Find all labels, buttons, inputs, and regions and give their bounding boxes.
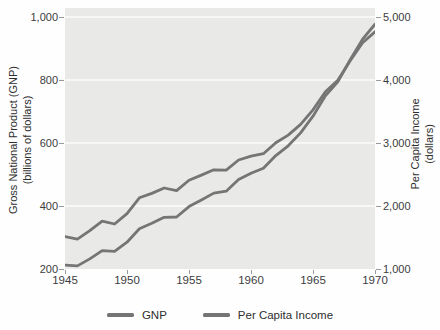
left-axis-tick-label: 1,000	[30, 11, 58, 23]
gnp-per-capita-income-chart: Gross National Product (GNP) (billions o…	[0, 0, 440, 330]
right-axis-title: Per Capita Income (dollars)	[409, 98, 436, 189]
right-axis-tick	[376, 206, 381, 207]
right-axis-tick	[376, 143, 381, 144]
right-axis-title-line2: (dollars)	[422, 98, 436, 189]
left-axis-tick	[59, 206, 64, 207]
right-axis-tick	[376, 269, 381, 270]
x-axis-tick-label: 1965	[291, 274, 335, 286]
right-axis-tick-label: 3,000	[383, 137, 411, 149]
right-axis-tick	[376, 80, 381, 81]
left-axis-tick-label: 800	[40, 74, 58, 86]
legend-label: Per Capita Income	[238, 309, 333, 321]
x-axis-tick-label: 1960	[229, 274, 273, 286]
left-axis-title: Gross National Product (GNP) (billions o…	[7, 66, 34, 214]
right-axis-tick-label: 5,000	[383, 11, 411, 23]
gnp-line	[65, 24, 375, 266]
left-axis-tick-label: 400	[40, 200, 58, 212]
x-axis-tick-label: 1950	[105, 274, 149, 286]
left-axis-tick	[59, 80, 64, 81]
plot-area	[65, 8, 375, 269]
right-axis-tick-label: 4,000	[383, 74, 411, 86]
left-axis-tick	[59, 269, 64, 270]
legend-item-gnp: GNP	[107, 309, 167, 321]
left-axis-title-line2: (billions of dollars)	[20, 66, 34, 214]
chart-legend: GNPPer Capita Income	[0, 304, 440, 326]
right-axis-tick-label: 2,000	[383, 200, 411, 212]
per-capita-income-line	[65, 32, 375, 239]
x-axis-tick-label: 1955	[167, 274, 211, 286]
left-axis-tick-label: 600	[40, 137, 58, 149]
left-axis-tick	[59, 17, 64, 18]
legend-label: GNP	[142, 309, 167, 321]
left-axis-tick	[59, 143, 64, 144]
x-axis-tick-label: 1945	[43, 274, 87, 286]
chart-canvas	[65, 8, 375, 269]
x-axis-tick-label: 1970	[353, 274, 397, 286]
right-axis-tick	[376, 17, 381, 18]
legend-item-per-capita-income: Per Capita Income	[203, 309, 333, 321]
legend-line-swatch	[203, 313, 230, 316]
legend-line-swatch	[107, 313, 134, 316]
left-axis-title-line1: Gross National Product (GNP)	[7, 66, 21, 214]
